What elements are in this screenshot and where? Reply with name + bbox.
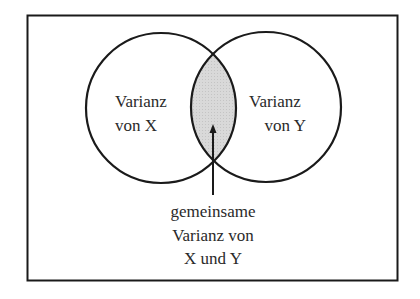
label-variance-x-line-2: von X xyxy=(115,116,157,135)
label-shared-variance-line-2: Varianz von xyxy=(172,226,254,245)
label-shared-variance-line-3: X und Y xyxy=(184,249,242,268)
label-variance-y-line-1: Varianz xyxy=(249,92,301,111)
label-variance-x-line-1: Varianz xyxy=(115,92,167,111)
label-variance-y-line-2: von Y xyxy=(265,116,306,135)
venn-diagram: Varianz von X Varianz von Y gemeinsame V… xyxy=(0,0,420,299)
label-shared-variance-line-1: gemeinsame xyxy=(171,202,256,221)
